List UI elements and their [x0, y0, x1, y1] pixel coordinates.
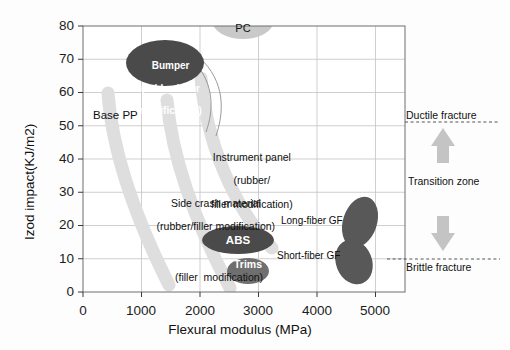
x-axis-title: Flexural modulus (MPa) — [130, 322, 350, 337]
y-tick-10: 10 — [50, 251, 74, 266]
blob-label-pc: PC — [223, 22, 263, 34]
blob-label-trims-suffix: (filler modification) — [175, 272, 315, 284]
bumper-line-2: (rubber/filler — [141, 83, 200, 94]
x-tick-5000: 5000 — [355, 303, 395, 318]
x-axis-tick-marks — [83, 292, 376, 297]
y-tick-60: 60 — [50, 84, 74, 99]
annotation-transition-zone: Transition zone — [408, 176, 479, 188]
annotation-ductile-fracture: Ductile fracture — [406, 110, 477, 122]
x-tick-4000: 4000 — [297, 303, 337, 318]
y-tick-0: 0 — [50, 284, 74, 299]
x-tick-3000: 3000 — [238, 303, 278, 318]
x-tick-1000: 1000 — [121, 303, 161, 318]
blob-label-trims: Trims — [227, 259, 269, 271]
blob-label-short-fiber-gf: Short-fiber GF — [277, 250, 340, 261]
x-tick-0: 0 — [63, 303, 103, 318]
y-tick-80: 80 — [50, 18, 74, 33]
band-label-base-pp: Base PP — [93, 109, 153, 122]
instrument-line-3: filler modification) — [211, 198, 293, 210]
y-tick-20: 20 — [50, 217, 74, 232]
y-axis-tick-marks — [78, 26, 83, 292]
y-tick-30: 30 — [50, 184, 74, 199]
band-label-instrument-panel: Instrument panel (rubber/ filler modific… — [185, 140, 307, 222]
y-tick-50: 50 — [50, 118, 74, 133]
y-tick-40: 40 — [50, 151, 74, 166]
instrument-line-2: (rubber/ — [233, 174, 270, 186]
bumper-line-1: Bumper — [152, 60, 190, 71]
y-tick-70: 70 — [50, 51, 74, 66]
up-arrow-icon — [431, 128, 455, 163]
instrument-line-1: Instrument panel — [213, 151, 291, 163]
y-axis-title: Izod impact(KJ/m2) — [22, 124, 37, 240]
annotation-brittle-fracture: Brittle fracture — [406, 262, 471, 274]
izod-impact-vs-flexural-modulus-chart: Izod impact(KJ/m2) 80 70 60 50 40 30 20 … — [0, 0, 510, 350]
down-arrow-icon — [431, 216, 455, 251]
x-tick-2000: 2000 — [180, 303, 220, 318]
